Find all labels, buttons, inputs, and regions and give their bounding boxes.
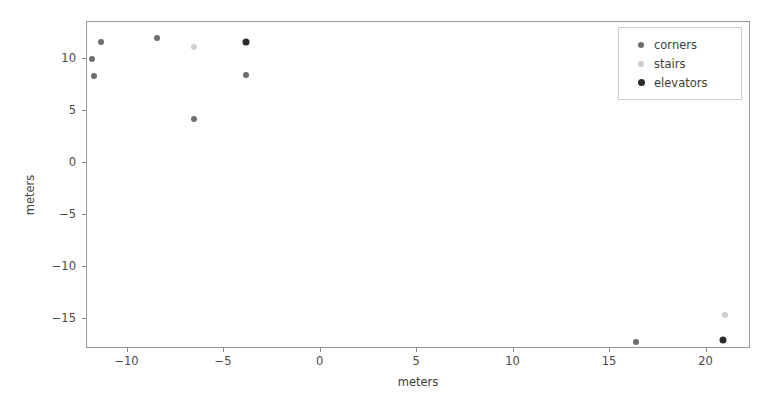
- x-tick-mark: [416, 348, 417, 352]
- data-point-corners: [91, 73, 97, 79]
- data-point-corners: [243, 72, 249, 78]
- y-tick-label: 0: [69, 155, 76, 169]
- data-point-elevators: [719, 336, 726, 343]
- y-tick-mark: [82, 266, 86, 267]
- y-tick-mark: [82, 162, 86, 163]
- y-tick-label: −5: [59, 207, 76, 221]
- data-point-corners: [98, 39, 104, 45]
- y-tick-label: 10: [61, 51, 76, 65]
- y-tick-mark: [82, 58, 86, 59]
- data-point-stairs: [191, 44, 197, 50]
- y-tick-label: 5: [69, 103, 76, 117]
- y-tick-label: −10: [52, 259, 76, 273]
- y-tick-mark: [82, 318, 86, 319]
- scatter-plot-figure: −10−505101520 1050−5−10−15 meters meters…: [0, 0, 775, 401]
- x-tick-label: 10: [505, 354, 520, 368]
- data-point-corners: [154, 35, 160, 41]
- x-tick-mark: [223, 348, 224, 352]
- x-axis-label: meters: [398, 375, 439, 389]
- data-point-corners: [89, 56, 95, 62]
- legend-label: stairs: [654, 57, 685, 71]
- x-tick-label: 5: [412, 354, 419, 368]
- legend: cornersstairselevators: [618, 27, 742, 100]
- legend-label: elevators: [654, 76, 707, 90]
- x-tick-label: 20: [698, 354, 713, 368]
- data-point-elevators: [243, 38, 250, 45]
- x-tick-label: 15: [602, 354, 617, 368]
- legend-label: corners: [654, 38, 697, 52]
- legend-marker-cell: [628, 61, 654, 67]
- y-axis-label: meters: [23, 175, 37, 216]
- legend-entry-corners[interactable]: corners: [628, 35, 732, 54]
- x-tick-mark: [609, 348, 610, 352]
- x-tick-mark: [320, 348, 321, 352]
- x-tick-mark: [513, 348, 514, 352]
- x-tick-mark: [706, 348, 707, 352]
- legend-marker-icon: [638, 79, 645, 86]
- y-tick-mark: [82, 110, 86, 111]
- legend-marker-cell: [628, 79, 654, 86]
- data-point-corners: [633, 339, 639, 345]
- x-tick-label: −5: [215, 354, 232, 368]
- y-tick-mark: [82, 214, 86, 215]
- legend-marker-cell: [628, 42, 654, 48]
- data-point-corners: [191, 116, 197, 122]
- legend-entry-elevators[interactable]: elevators: [628, 73, 732, 92]
- y-tick-label: −15: [52, 311, 76, 325]
- legend-marker-icon: [638, 61, 644, 67]
- data-point-stairs: [722, 312, 728, 318]
- legend-marker-icon: [638, 42, 644, 48]
- legend-entry-stairs[interactable]: stairs: [628, 54, 732, 73]
- x-tick-label: −10: [114, 354, 138, 368]
- x-tick-mark: [127, 348, 128, 352]
- x-tick-label: 0: [316, 354, 323, 368]
